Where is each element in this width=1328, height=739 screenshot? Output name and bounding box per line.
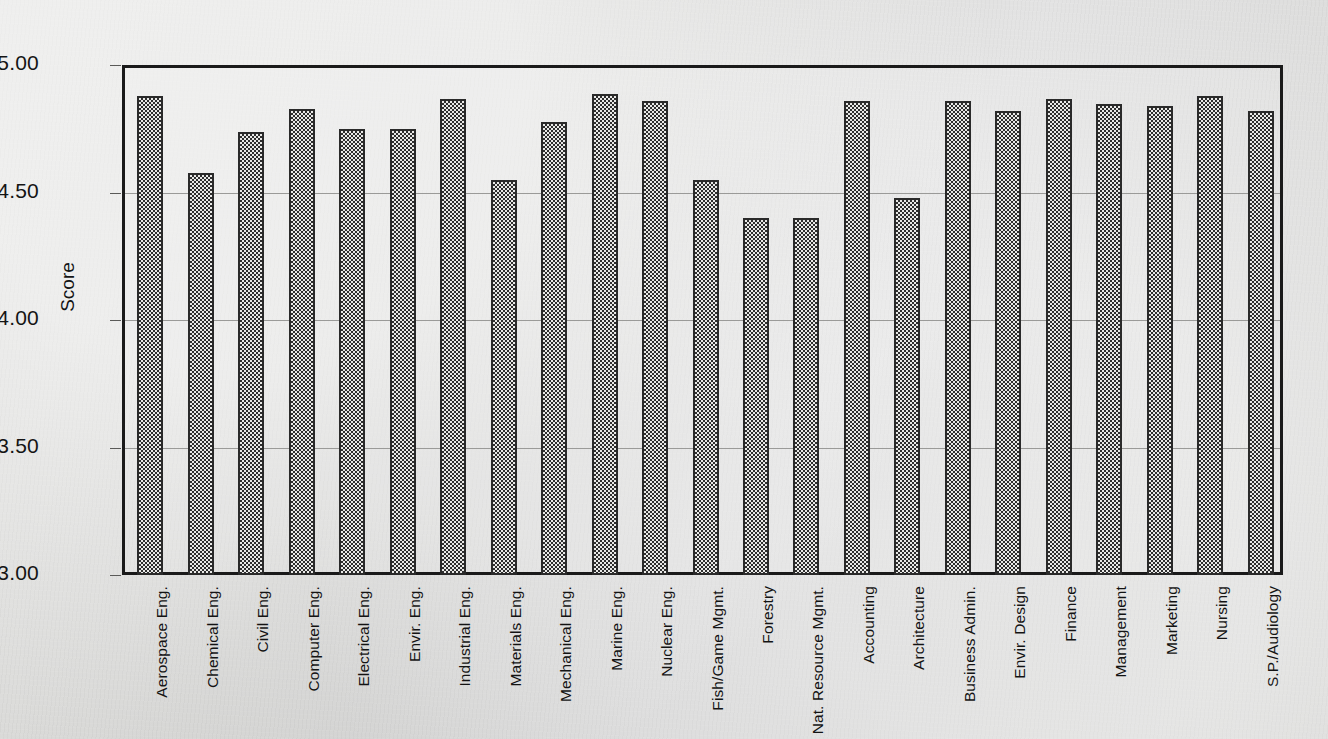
x-axis-tick-label: Business Admin. bbox=[961, 586, 979, 736]
bar bbox=[491, 180, 517, 575]
bar bbox=[440, 99, 466, 575]
y-axis-tick-label: 5.00 bbox=[0, 51, 39, 75]
x-axis-tick-label: Architecture bbox=[910, 586, 928, 736]
bar bbox=[894, 198, 920, 575]
bar bbox=[945, 101, 971, 575]
bar bbox=[642, 101, 668, 575]
plot-area bbox=[122, 65, 1283, 575]
x-axis-tick-label: Nursing bbox=[1213, 586, 1231, 736]
x-axis-tick-label: Envir. Design bbox=[1011, 586, 1029, 736]
bar bbox=[390, 129, 416, 575]
x-axis-tick-label: Chemical Eng. bbox=[204, 586, 222, 736]
bar bbox=[188, 173, 214, 575]
bar bbox=[1046, 99, 1072, 575]
x-axis-tick-label: Electrical Eng. bbox=[355, 586, 373, 736]
x-axis-tick-label: Forestry bbox=[759, 586, 777, 736]
bar bbox=[238, 132, 264, 575]
x-axis-tick-label: Industrial Eng. bbox=[456, 586, 474, 736]
bar bbox=[1096, 104, 1122, 575]
x-axis-tick-label: Management bbox=[1112, 586, 1130, 736]
x-axis-tick-label: Civil Eng. bbox=[254, 586, 272, 736]
bar bbox=[1248, 111, 1274, 575]
bar bbox=[844, 101, 870, 575]
bar bbox=[995, 111, 1021, 575]
y-axis-tick-label: 4.50 bbox=[0, 179, 39, 203]
x-axis-tick-label: Computer Eng. bbox=[305, 586, 323, 736]
bar-chart: Score 5.004.504.003.503.00Aerospace Eng.… bbox=[0, 0, 1328, 739]
x-axis-tick-label: Fish/Game Mgmt. bbox=[709, 586, 727, 736]
x-axis-tick-label: Accounting bbox=[860, 586, 878, 736]
bar bbox=[541, 122, 567, 575]
x-axis-tick-label: Nuclear Eng. bbox=[658, 586, 676, 736]
y-axis-tick-label: 3.50 bbox=[0, 434, 39, 458]
x-axis-tick-label: Aerospace Eng. bbox=[153, 586, 171, 736]
bar bbox=[743, 218, 769, 575]
x-axis-tick-label: Envir. Eng. bbox=[406, 586, 424, 736]
y-axis-tick-label: 4.00 bbox=[0, 306, 39, 330]
bar bbox=[1147, 106, 1173, 575]
x-axis-tick-label: Mechanical Eng. bbox=[557, 586, 575, 736]
x-axis-tick-label: Marketing bbox=[1163, 586, 1181, 736]
bar bbox=[592, 94, 618, 576]
y-axis-title: Score bbox=[57, 217, 79, 357]
y-axis-tick-label: 3.00 bbox=[0, 561, 39, 585]
x-axis-tick-label: S.P./Audiology bbox=[1264, 586, 1282, 736]
bar bbox=[339, 129, 365, 575]
y-axis-tick-mark bbox=[110, 65, 121, 66]
bar bbox=[793, 218, 819, 575]
y-axis-tick-mark bbox=[110, 193, 121, 194]
y-axis-tick-mark bbox=[110, 320, 121, 321]
x-axis-tick-label: Materials Eng. bbox=[507, 586, 525, 736]
bar bbox=[1197, 96, 1223, 575]
bar bbox=[693, 180, 719, 575]
bar bbox=[137, 96, 163, 575]
x-axis-tick-label: Finance bbox=[1062, 586, 1080, 736]
y-axis-tick-mark bbox=[110, 575, 121, 576]
x-axis-tick-label: Nat. Resource Mgmt. bbox=[809, 586, 827, 736]
y-axis-tick-mark bbox=[110, 448, 121, 449]
bar bbox=[289, 109, 315, 575]
x-axis-tick-label: Marine Eng. bbox=[608, 586, 626, 736]
